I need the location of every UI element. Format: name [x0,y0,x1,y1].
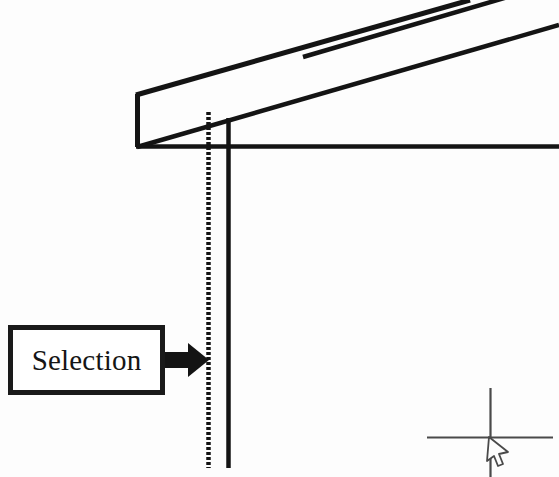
callout-block-arrow [163,343,209,377]
arrow-shaft [163,352,191,368]
selection-callout-label: Selection [32,346,142,375]
cad-vector-layer [0,0,559,477]
beam-top-edge [136,0,470,95]
cad-drawing-canvas: Selection [0,0,559,477]
arrow-head [188,343,209,377]
sloped-roof-beam[interactable] [136,0,559,147]
crosshair-pick-cursor [427,388,553,477]
selection-callout-box[interactable]: Selection [8,325,165,395]
